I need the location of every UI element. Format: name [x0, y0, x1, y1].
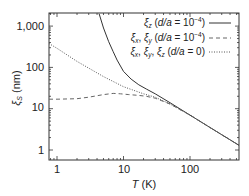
legend-entry-solid: ξz (d/a = 10−4): [144, 16, 231, 29]
x-tick-100: 100: [181, 163, 199, 175]
x-tick-1: 1: [54, 163, 60, 175]
legend-entry-dashed: ξx, ξy (d/a = 10−4): [131, 31, 231, 45]
correlation-length-chart: 1 10 100 1,000 1 10 100 T (K) ξS (nm) ξz…: [0, 0, 249, 196]
svg-text:ξz (d/a = 10−4): ξz (d/a = 10−4): [144, 16, 205, 29]
y-tick-1: 1: [38, 144, 44, 156]
svg-text:ξx, ξy (d/a = 10−4): ξx, ξy (d/a = 10−4): [131, 31, 205, 45]
legend: ξz (d/a = 10−4) ξx, ξy (d/a = 10−4) ξx, …: [130, 16, 231, 59]
svg-text:ξx, ξy, ξz (d/a = 0): ξx, ξy, ξz (d/a = 0): [130, 46, 205, 59]
y-tick-10: 10: [32, 101, 44, 113]
y-axis-label: ξS (nm): [10, 70, 23, 105]
series-xi-xy-dashed: [49, 93, 239, 145]
x-tick-10: 10: [118, 163, 130, 175]
y-tick-100: 100: [26, 61, 44, 73]
series-xi-xyz-dotted: [49, 44, 239, 146]
y-tick-1000: 1,000: [16, 20, 44, 32]
legend-entry-dotted: ξx, ξy, ξz (d/a = 0): [130, 46, 231, 59]
x-tick-labels: 1 10 100: [54, 163, 199, 175]
x-axis-label: T (K): [132, 178, 156, 190]
